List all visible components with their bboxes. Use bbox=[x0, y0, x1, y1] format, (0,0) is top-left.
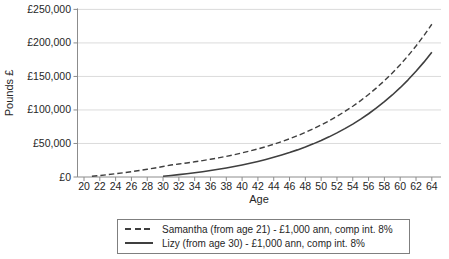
x-tick-label: 20 bbox=[78, 180, 90, 192]
y-tick-label: £0 bbox=[59, 171, 71, 183]
y-tick-label: £100,000 bbox=[27, 103, 71, 115]
y-tick-label: £250,000 bbox=[27, 3, 71, 15]
x-tick-label: 38 bbox=[220, 180, 232, 192]
x-tick-label: 22 bbox=[94, 180, 106, 192]
x-tick-label: 60 bbox=[394, 180, 406, 192]
x-tick-label: 58 bbox=[379, 180, 391, 192]
x-tick-label: 54 bbox=[347, 180, 359, 192]
legend-item-samantha: Samantha (from age 21) - £1,000 ann, com… bbox=[125, 222, 405, 236]
series-line-dashed bbox=[92, 24, 432, 176]
x-tick-label: 30 bbox=[157, 180, 169, 192]
x-tick-label: 46 bbox=[284, 180, 296, 192]
y-tick-label: £50,000 bbox=[33, 137, 71, 149]
x-tick-label: 52 bbox=[331, 180, 343, 192]
compound-interest-chart: Pounds £ Age £0£50,000£100,000£150,000£2… bbox=[0, 0, 449, 212]
x-tick-label: 50 bbox=[315, 180, 327, 192]
x-tick-label: 32 bbox=[173, 180, 185, 192]
x-tick-label: 44 bbox=[268, 180, 280, 192]
x-tick-label: 42 bbox=[252, 180, 264, 192]
x-tick-label: 28 bbox=[141, 180, 153, 192]
legend: Samantha (from age 21) - £1,000 ann, com… bbox=[117, 219, 410, 254]
y-tick-label: £150,000 bbox=[27, 70, 71, 82]
x-tick-label: 56 bbox=[363, 180, 375, 192]
series-line-solid bbox=[163, 52, 432, 176]
x-tick-label: 34 bbox=[189, 180, 201, 192]
x-tick-label: 24 bbox=[110, 180, 122, 192]
y-axis-title: Pounds £ bbox=[3, 70, 15, 116]
plot-area: £0£50,000£100,000£150,000£200,000£250,00… bbox=[27, 3, 441, 192]
x-tick-label: 26 bbox=[126, 180, 138, 192]
x-axis-title: Age bbox=[249, 193, 269, 205]
x-tick-label: 40 bbox=[236, 180, 248, 192]
x-tick-label: 62 bbox=[410, 180, 422, 192]
y-tick-label: £200,000 bbox=[27, 36, 71, 48]
legend-label-lizy: Lizy (from age 30) - £1,000 ann, comp in… bbox=[162, 238, 365, 249]
dashed-line-sample bbox=[125, 228, 153, 230]
legend-item-lizy: Lizy (from age 30) - £1,000 ann, comp in… bbox=[125, 236, 405, 250]
legend-label-samantha: Samantha (from age 21) - £1,000 ann, com… bbox=[162, 224, 393, 235]
x-tick-label: 36 bbox=[205, 180, 217, 192]
x-tick-label: 48 bbox=[299, 180, 311, 192]
x-tick-label: 64 bbox=[426, 180, 438, 192]
solid-line-sample bbox=[125, 242, 153, 244]
